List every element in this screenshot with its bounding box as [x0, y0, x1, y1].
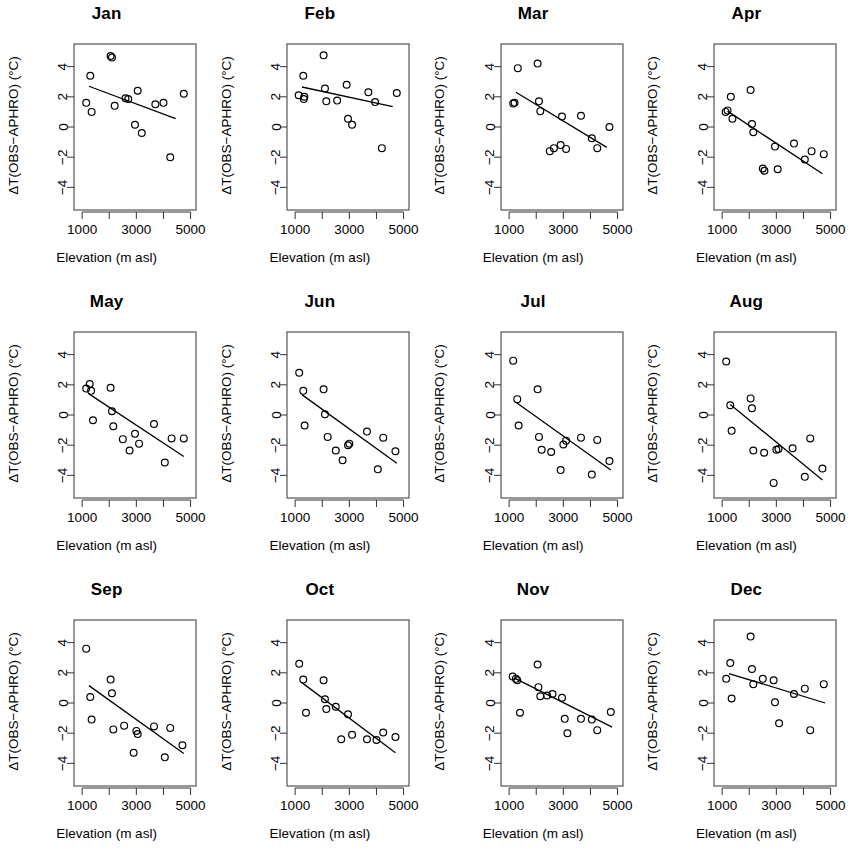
data-point [110, 726, 117, 733]
panel-dec: DecΔT(OBS−APHRO) (°C)Elevation (m asl)−4… [640, 576, 853, 864]
y-tick-label: −2 [56, 149, 71, 164]
x-tick-label: 1000 [707, 798, 737, 813]
data-point [109, 54, 116, 61]
data-point [380, 729, 387, 736]
data-point [364, 428, 371, 435]
regression-line [89, 686, 184, 754]
y-tick-label: −2 [482, 437, 497, 452]
y-tick-label: 4 [269, 62, 284, 70]
data-point [300, 387, 307, 394]
x-tick-label: 1000 [67, 222, 97, 237]
y-tick-label: −2 [695, 725, 710, 740]
data-point [300, 676, 307, 683]
data-point [534, 386, 541, 393]
plot-area: −4−2024100030005000 [213, 576, 426, 864]
data-point [577, 112, 584, 119]
data-point [111, 102, 118, 109]
x-tick-label: 5000 [815, 510, 845, 525]
y-tick-label: 2 [482, 93, 497, 101]
data-point [303, 709, 310, 716]
plot-frame [287, 44, 409, 210]
data-point [132, 430, 139, 437]
data-point [339, 457, 346, 464]
data-point [87, 694, 94, 701]
x-tick-label: 3000 [335, 798, 365, 813]
y-tick-label: 4 [269, 350, 284, 358]
y-tick-label: 0 [482, 699, 497, 707]
data-point [161, 459, 168, 466]
regression-line [730, 404, 822, 479]
regression-line [729, 674, 825, 703]
y-tick-label: −2 [269, 725, 284, 740]
data-point [349, 121, 356, 128]
data-point [750, 129, 757, 136]
data-point [747, 87, 754, 94]
data-point [90, 417, 97, 424]
x-tick-label: 5000 [815, 798, 845, 813]
y-tick-label: −4 [482, 179, 497, 195]
x-tick-label: 3000 [121, 222, 151, 237]
y-tick-label: 0 [269, 411, 284, 419]
y-tick-label: 2 [56, 669, 71, 677]
data-point [606, 458, 613, 465]
plot-frame [287, 620, 409, 786]
panel-jul: JulΔT(OBS−APHRO) (°C)Elevation (m asl)−4… [427, 288, 640, 576]
x-tick-label: 3000 [121, 510, 151, 525]
x-tick-label: 1000 [280, 510, 310, 525]
data-point [748, 405, 755, 412]
data-point [296, 660, 303, 667]
data-point [167, 725, 174, 732]
data-point [392, 734, 399, 741]
x-tick-label: 5000 [815, 222, 845, 237]
x-tick-label: 1000 [707, 510, 737, 525]
regression-line [514, 678, 612, 727]
y-tick-label: −4 [482, 467, 497, 483]
y-tick-label: −2 [695, 149, 710, 164]
data-point [820, 681, 827, 688]
data-point [180, 90, 187, 97]
x-tick-label: 5000 [602, 222, 632, 237]
y-tick-label: 2 [482, 381, 497, 389]
x-tick-label: 3000 [335, 510, 365, 525]
data-point [345, 115, 352, 122]
plot-area: −4−2024100030005000 [427, 288, 640, 576]
data-point [558, 694, 565, 701]
y-tick-label: 0 [269, 123, 284, 131]
data-point [759, 675, 766, 682]
x-tick-label: 1000 [67, 510, 97, 525]
y-tick-label: −2 [482, 149, 497, 164]
data-point [392, 448, 399, 455]
y-tick-label: −2 [269, 149, 284, 164]
x-tick-label: 1000 [280, 222, 310, 237]
y-tick-label: 2 [695, 381, 710, 389]
data-point [333, 447, 340, 454]
y-tick-label: −4 [269, 467, 284, 483]
data-point [770, 480, 777, 487]
y-tick-label: 4 [482, 62, 497, 70]
data-point [296, 369, 303, 376]
y-tick-label: −4 [695, 467, 710, 483]
data-point [320, 677, 327, 684]
data-point [107, 384, 114, 391]
data-point [819, 465, 826, 472]
y-tick-label: 4 [56, 350, 71, 358]
data-point [109, 690, 116, 697]
panel-aug: AugΔT(OBS−APHRO) (°C)Elevation (m asl)−4… [640, 288, 853, 576]
data-point [179, 742, 186, 749]
data-point [820, 151, 827, 158]
data-point [514, 65, 521, 72]
data-point [562, 145, 569, 152]
data-point [180, 435, 187, 442]
data-point [301, 422, 308, 429]
data-point [516, 709, 523, 716]
x-tick-label: 5000 [389, 510, 419, 525]
y-tick-label: −2 [56, 725, 71, 740]
plot-area: −4−2024100030005000 [0, 576, 213, 864]
y-tick-label: 4 [56, 62, 71, 70]
data-point [748, 121, 755, 128]
data-point [750, 681, 757, 688]
y-tick-label: 4 [56, 638, 71, 646]
data-point [161, 754, 168, 761]
data-point [759, 165, 766, 172]
y-tick-label: −4 [269, 179, 284, 195]
